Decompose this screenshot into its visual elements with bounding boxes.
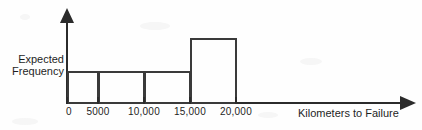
scan-speck	[20, 14, 30, 20]
scan-speck	[12, 118, 38, 125]
y-axis-label-line-2: Frequency	[0, 66, 64, 78]
x-tick-label-10000: 10,000	[128, 106, 160, 117]
x-tick-10000	[143, 97, 145, 104]
bar-bin-15000-20000	[190, 38, 237, 104]
x-tick-label-15000: 15,000	[174, 106, 206, 117]
x-tick-label-0: 0	[66, 106, 72, 117]
x-tick-0	[66, 97, 68, 104]
x-axis-label: Kilometers to Failure	[298, 107, 399, 119]
x-tick-15000	[189, 97, 191, 104]
y-axis-label: Expected Frequency	[0, 54, 64, 77]
bar-bin-5000-10000	[98, 71, 145, 104]
x-tick-20000	[235, 97, 237, 104]
scan-speck	[140, 22, 170, 30]
y-axis-label-line-1: Expected	[0, 54, 64, 66]
scan-speck	[300, 58, 322, 65]
histogram-figure: 0 5000 10,000 15,000 20,000 Expected Fre…	[0, 0, 422, 130]
x-tick-label-20000: 20,000	[220, 106, 252, 117]
y-axis-arrow-icon	[60, 8, 74, 23]
x-axis-arrow-icon	[400, 96, 416, 110]
bar-bin-0-5000	[67, 71, 99, 104]
scan-speck	[258, 112, 278, 118]
x-tick-5000	[97, 97, 99, 104]
bar-bin-10000-15000	[144, 71, 191, 104]
x-tick-label-5000: 5000	[86, 106, 109, 117]
